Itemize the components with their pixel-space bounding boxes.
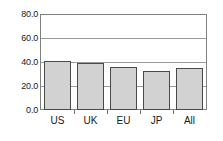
bar-slot-uk [77, 15, 104, 110]
x-tick-1 [74, 110, 75, 114]
x-tick-3 [140, 110, 141, 114]
x-tick-label-all: All [174, 115, 205, 127]
bar-uk[interactable] [77, 63, 104, 110]
bar-jp[interactable] [143, 71, 170, 110]
y-axis: 80.0 60.0 40.0 20.0 0.0 [0, 0, 38, 141]
y-tick-label-20: 20.0 [2, 82, 38, 91]
bar-chart: 80.0 60.0 40.0 20.0 0.0 [0, 0, 223, 141]
x-tick-label-us: US [42, 115, 73, 127]
y-tick-label-80: 80.0 [2, 10, 38, 19]
bar-slot-eu [110, 15, 137, 110]
x-tick-label-eu: EU [108, 115, 139, 127]
y-tick-label-40: 40.0 [2, 58, 38, 67]
x-tick-2 [107, 110, 108, 114]
x-tick-label-jp: JP [141, 115, 172, 127]
x-axis: US UK EU JP All [41, 115, 206, 131]
bar-us[interactable] [44, 61, 71, 110]
bar-slot-us [44, 15, 71, 110]
x-tick-4 [173, 110, 174, 114]
y-tick-label-0: 0.0 [2, 106, 38, 115]
bar-slot-all [176, 15, 203, 110]
bar-eu[interactable] [110, 67, 137, 110]
bar-slot-jp [143, 15, 170, 110]
bar-all[interactable] [176, 68, 203, 110]
bars-layer [41, 15, 206, 110]
x-tick-label-uk: UK [75, 115, 106, 127]
y-tick-label-60: 60.0 [2, 34, 38, 43]
